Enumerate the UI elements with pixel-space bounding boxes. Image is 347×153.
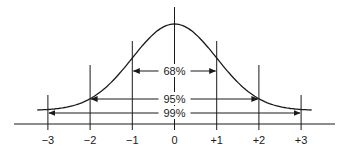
normal-distribution-diagram: 68%95%99% −3−2−10+1+2+3: [0, 0, 347, 153]
interval-99pct: 99%: [49, 106, 300, 119]
tick-label: −2: [84, 134, 97, 146]
interval-95pct: 95%: [91, 92, 258, 105]
tick-label: +2: [253, 134, 266, 146]
tick-label: 0: [171, 134, 177, 146]
tick-label: +1: [210, 134, 223, 146]
interval-label: 99%: [163, 107, 185, 119]
tick-label: −1: [126, 134, 139, 146]
tick-labels: −3−2−10+1+2+3: [42, 134, 308, 146]
interval-label: 95%: [163, 93, 185, 105]
interval-68pct: 68%: [133, 64, 215, 77]
tick-label: −3: [42, 134, 55, 146]
interval-label: 68%: [163, 65, 185, 77]
tick-label: +3: [295, 134, 308, 146]
